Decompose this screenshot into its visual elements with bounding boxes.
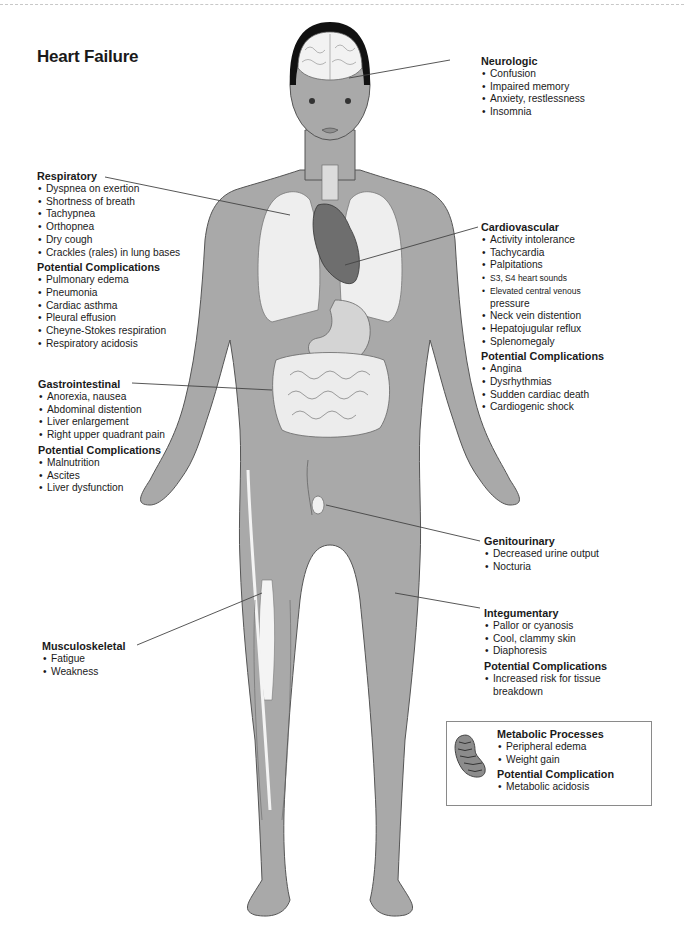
gastrointestinal-complications-list: Malnutrition Ascites Liver dysfunction — [38, 457, 165, 495]
list-item-continuation: breakdown — [493, 686, 607, 699]
neurologic-list: Confusion Impaired memory Anxiety, restl… — [481, 68, 585, 119]
respiratory-section: Respiratory Dyspnea on exertion Shortnes… — [37, 170, 180, 350]
list-item: Pleural effusion — [37, 312, 180, 325]
cardiovascular-complications-heading: Potential Complications — [481, 350, 604, 363]
musculoskeletal-section: Musculoskeletal Fatigue Weakness — [42, 640, 125, 678]
list-item: Angina — [481, 363, 604, 376]
list-item: Nocturia — [484, 561, 599, 574]
list-item: Liver dysfunction — [38, 482, 165, 495]
neurologic-heading: Neurologic — [481, 55, 585, 68]
list-item: Dyspnea on exertion — [37, 183, 180, 196]
list-item-line: Increased risk for tissue — [493, 673, 601, 684]
integumentary-complications-heading: Potential Complications — [484, 660, 607, 673]
list-item: Neck vein distention — [481, 310, 604, 323]
gastrointestinal-complications-heading: Potential Complications — [38, 444, 165, 457]
list-item: Crackles (rales) in lung bases — [37, 247, 180, 260]
metabolic-complications-list: Metabolic acidosis — [497, 781, 614, 794]
list-item: Fatigue — [42, 653, 125, 666]
list-item: Cardiogenic shock — [481, 401, 604, 414]
respiratory-complications-heading: Potential Complications — [37, 261, 180, 274]
genitourinary-section: Genitourinary Decreased urine output Noc… — [484, 535, 599, 573]
list-item: Tachypnea — [37, 208, 180, 221]
list-item-line: Elevated central venous — [490, 286, 581, 296]
list-item: Weight gain — [497, 754, 614, 767]
list-item: Splenomegaly — [481, 336, 604, 349]
cardiovascular-heading: Cardiovascular — [481, 221, 604, 234]
list-item: Cardiac asthma — [37, 300, 180, 313]
list-item: Hepatojugular reflux — [481, 323, 604, 336]
gastrointestinal-section: Gastrointestinal Anorexia, nausea Abdomi… — [38, 378, 165, 495]
genitourinary-heading: Genitourinary — [484, 535, 599, 548]
left-lung — [258, 192, 320, 322]
list-item: Right upper quadrant pain — [38, 429, 165, 442]
gastrointestinal-heading: Gastrointestinal — [38, 378, 165, 391]
list-item: Weakness — [42, 666, 125, 679]
list-item: S3, S4 heart sounds — [481, 272, 604, 285]
integumentary-heading: Integumentary — [484, 607, 607, 620]
mitochondrion-icon — [453, 732, 491, 780]
list-item: Elevated central venouspressure — [481, 285, 604, 310]
list-item: Anxiety, restlessness — [481, 93, 585, 106]
list-item: Confusion — [481, 68, 585, 81]
list-item: Liver enlargement — [38, 416, 165, 429]
list-item: Ascites — [38, 470, 165, 483]
genitourinary-list: Decreased urine output Nocturia — [484, 548, 599, 573]
metabolic-heading: Metabolic Processes — [497, 728, 614, 741]
list-item: Palpitations — [481, 259, 604, 272]
metabolic-complications-heading: Potential Complication — [497, 768, 614, 781]
list-item: Pneumonia — [37, 287, 180, 300]
list-item: Orthopnea — [37, 221, 180, 234]
list-item: Shortness of breath — [37, 196, 180, 209]
list-item: Respiratory acidosis — [37, 338, 180, 351]
list-item: Impaired memory — [481, 81, 585, 94]
respiratory-heading: Respiratory — [37, 170, 180, 183]
neurologic-section: Neurologic Confusion Impaired memory Anx… — [481, 55, 585, 119]
list-item: Abdominal distention — [38, 404, 165, 417]
list-item: Decreased urine output — [484, 548, 599, 561]
list-item: Cool, clammy skin — [484, 633, 607, 646]
list-item: Metabolic acidosis — [497, 781, 614, 794]
list-item: Tachycardia — [481, 247, 604, 260]
respiratory-list: Dyspnea on exertion Shortness of breath … — [37, 183, 180, 259]
integumentary-complications-list: Increased risk for tissuebreakdown — [484, 673, 607, 698]
list-item: Anorexia, nausea — [38, 391, 165, 404]
metabolic-section: Metabolic Processes Peripheral edema Wei… — [497, 728, 614, 794]
cardiovascular-section: Cardiovascular Activity intolerance Tach… — [481, 221, 604, 414]
integumentary-list: Pallor or cyanosis Cool, clammy skin Dia… — [484, 620, 607, 658]
musculoskeletal-heading: Musculoskeletal — [42, 640, 125, 653]
list-item: Peripheral edema — [497, 741, 614, 754]
list-item: Pulmonary edema — [37, 274, 180, 287]
cardiovascular-complications-list: Angina Dysrhythmias Sudden cardiac death… — [481, 363, 604, 414]
respiratory-complications-list: Pulmonary edema Pneumonia Cardiac asthma… — [37, 274, 180, 350]
list-item: Sudden cardiac death — [481, 389, 604, 402]
metabolic-list: Peripheral edema Weight gain — [497, 741, 614, 766]
list-item: Insomnia — [481, 106, 585, 119]
list-item-continuation: pressure — [490, 298, 604, 311]
metabolic-processes-box: Metabolic Processes Peripheral edema Wei… — [446, 721, 652, 806]
list-item: Dry cough — [37, 234, 180, 247]
intestines — [273, 353, 390, 438]
list-item: Diaphoresis — [484, 645, 607, 658]
integumentary-section: Integumentary Pallor or cyanosis Cool, c… — [484, 607, 607, 699]
gastrointestinal-list: Anorexia, nausea Abdominal distention Li… — [38, 391, 165, 442]
list-item: Malnutrition — [38, 457, 165, 470]
list-item: Cheyne-Stokes respiration — [37, 325, 180, 338]
musculoskeletal-list: Fatigue Weakness — [42, 653, 125, 678]
list-item: Increased risk for tissuebreakdown — [484, 673, 607, 698]
list-item: Activity intolerance — [481, 234, 604, 247]
list-item: Dysrhythmias — [481, 376, 604, 389]
cardiovascular-list: Activity intolerance Tachycardia Palpita… — [481, 234, 604, 348]
list-item: Pallor or cyanosis — [484, 620, 607, 633]
